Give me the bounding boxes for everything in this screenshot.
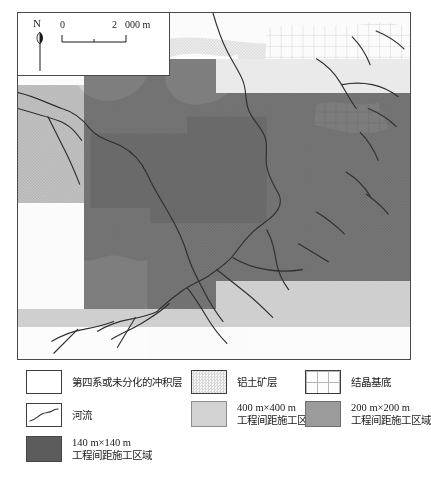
legend-swatch-quaternary xyxy=(26,370,62,394)
legend-label-zone-140: 140 m×140 m 工程间距施工区域 xyxy=(72,436,152,462)
legend-label-basement: 结晶基底 xyxy=(351,376,391,389)
north-arrow-icon: N xyxy=(32,17,54,73)
legend-swatch-river xyxy=(26,403,62,427)
legend-label-zone-200: 200 m×200 m 工程间距施工区域 xyxy=(351,401,431,427)
river-line-icon xyxy=(27,404,61,426)
map-figure: N 0 2 000 m xyxy=(17,12,411,360)
map-legend: 第四系或未分化的冲积层 铝土矿层 结晶基底 河流 400 m×400 m 工程间… xyxy=(17,366,417,474)
legend-item-zone-200: 200 m×200 m 工程间距施工区域 xyxy=(305,401,431,427)
scale-bar-start-label: 0 xyxy=(60,19,65,30)
legend-label-bauxite: 铝土矿层 xyxy=(237,376,277,389)
legend-item-zone-400: 400 m×400 m 工程间距施工区域 xyxy=(191,401,317,427)
scale-and-north-inset: N 0 2 000 m xyxy=(18,13,170,76)
legend-item-bauxite: 铝土矿层 xyxy=(191,370,277,394)
legend-label-river: 河流 xyxy=(72,409,92,422)
legend-label-quaternary: 第四系或未分化的冲积层 xyxy=(72,376,182,389)
scale-bar: 0 2 000 m xyxy=(60,19,160,49)
legend-swatch-zone-400 xyxy=(191,401,227,427)
legend-swatch-basement xyxy=(305,370,341,394)
legend-swatch-bauxite xyxy=(191,370,227,394)
legend-swatch-zone-200 xyxy=(305,401,341,427)
north-label: N xyxy=(33,17,41,29)
legend-swatch-zone-140 xyxy=(26,436,62,462)
legend-item-river: 河流 xyxy=(26,403,92,427)
scale-bar-unit-label: 000 m xyxy=(125,19,150,30)
scale-bar-graphic xyxy=(60,31,160,47)
legend-item-basement: 结晶基底 xyxy=(305,370,391,394)
legend-item-quaternary: 第四系或未分化的冲积层 xyxy=(26,370,182,394)
scale-bar-mid-label: 2 xyxy=(112,19,117,30)
legend-item-zone-140: 140 m×140 m 工程间距施工区域 xyxy=(26,436,152,462)
